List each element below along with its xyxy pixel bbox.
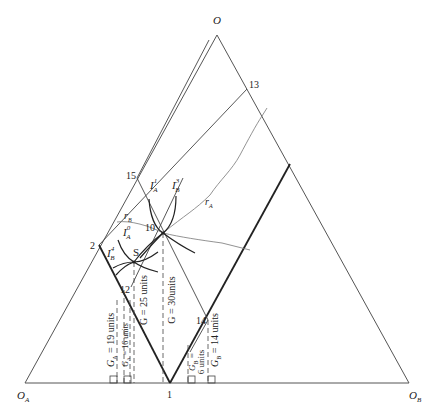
point-S (132, 260, 135, 263)
gb-14-label: GB = 14 units (209, 313, 222, 367)
point-12-label: 12 (120, 284, 130, 295)
curve-rA-label: rA (205, 196, 213, 209)
curve-IA0-label: I0A (122, 224, 131, 241)
curve-rA (163, 108, 267, 233)
curve-IB3-label: I3B (171, 177, 180, 194)
g-25-label: G = 25 units (138, 275, 149, 325)
vertex-OA-label: OA (17, 389, 30, 404)
point-13-label: 13 (249, 79, 259, 90)
g-30-label: G = 30units (166, 276, 177, 323)
point-S-label: S (133, 246, 139, 258)
point-10-label: 10 (145, 222, 155, 233)
offer-curves (117, 108, 267, 250)
ga-16-label: GA = 16 units (121, 323, 131, 366)
point-2-label: 2 (90, 240, 95, 251)
ga-19-label: GA = 19 units (105, 313, 118, 367)
vertex-OB-label: OB (409, 389, 422, 404)
point-1-label: 1 (167, 389, 172, 400)
point-14-label: 14 (196, 315, 206, 326)
point-15-label: 15 (126, 170, 136, 181)
gb-6-units-label: 6 units (196, 349, 206, 374)
axis-boxes (110, 376, 215, 383)
vertex-O-label: O (213, 14, 221, 26)
edgeworth-triangle-diagram: O OA OB 1 2 10 12 13 14 15 S I1A I3B I0A… (0, 0, 442, 414)
point-10 (161, 231, 164, 234)
